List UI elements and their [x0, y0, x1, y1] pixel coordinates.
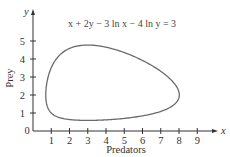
x-tick-label: 9 [195, 135, 200, 146]
x-axis-symbol: x [220, 125, 226, 136]
phase-plot: 123456789 12345 0 x y Predators Prey x +… [0, 0, 230, 157]
y-ticks: 12345 [20, 36, 36, 119]
x-tick-label: 3 [85, 135, 90, 146]
y-tick-label: 1 [20, 108, 25, 119]
origin-label: 0 [24, 125, 29, 136]
y-tick-label: 5 [20, 36, 25, 47]
y-tick-label: 3 [20, 72, 25, 83]
x-tick-label: 7 [158, 135, 163, 146]
x-axis-title: Predators [106, 144, 146, 155]
x-tick-label: 1 [49, 135, 54, 146]
level-curve [46, 45, 180, 120]
y-axis-title: Prey [4, 68, 15, 88]
y-axis-symbol: y [23, 6, 29, 17]
x-tick-label: 2 [67, 135, 72, 146]
x-axis-arrow-icon [212, 129, 218, 133]
equation-label: x + 2y − 3 ln x − 4 ln y = 3 [68, 18, 176, 29]
y-axis-arrow-icon [31, 9, 35, 15]
y-tick-label: 4 [20, 54, 26, 65]
x-tick-label: 8 [176, 135, 181, 146]
y-tick-label: 2 [20, 90, 25, 101]
